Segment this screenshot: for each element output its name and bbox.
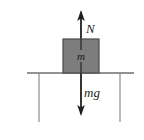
- block-mass-label: m: [77, 50, 85, 62]
- free-body-diagram: N m mg: [0, 0, 144, 140]
- weight-force-label: mg: [84, 85, 100, 100]
- diagram-canvas: N m mg: [0, 0, 144, 140]
- normal-force-label: N: [85, 21, 96, 36]
